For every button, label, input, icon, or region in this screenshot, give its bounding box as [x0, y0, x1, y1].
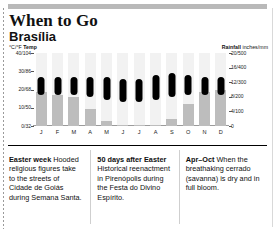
month-label: A	[85, 129, 96, 135]
temperature-range-marker	[217, 77, 224, 95]
chart-column: N	[199, 53, 210, 126]
rainfall-bar	[215, 90, 226, 126]
city-subtitle: Brasília	[9, 30, 56, 44]
chart-column: D	[215, 53, 226, 126]
chart-column: A	[85, 53, 96, 126]
rainfall-bar	[150, 125, 161, 126]
month-label: D	[215, 129, 226, 135]
chart-column: M	[101, 53, 112, 126]
right-axis-tick-label: 20/500	[231, 51, 246, 56]
left-axis-tick-label: 40/104	[16, 51, 31, 56]
caption-block: Easter week Hooded religious figures tak…	[8, 150, 90, 224]
month-label: A	[150, 129, 161, 135]
left-axis-tick-label: 30/86	[18, 69, 31, 74]
chart-column: J	[36, 53, 47, 126]
rainfall-bar	[166, 119, 177, 126]
temperature-range-marker	[152, 75, 159, 101]
caption-block: Apr–Oct When the breathaking cerrado (sa…	[179, 150, 267, 224]
rainfall-bar	[134, 125, 145, 126]
right-axis-tick-mark	[229, 111, 232, 112]
month-label: J	[117, 129, 128, 135]
temperature-range-marker	[136, 79, 143, 103]
climate-chart: °C/°F Temp Rainfall inches/mm 0/3210/502…	[0, 44, 275, 142]
month-label: M	[101, 129, 112, 135]
left-axis-tick-mark	[31, 126, 34, 127]
month-label: J	[36, 129, 47, 135]
left-axis-tick-label: 10/50	[18, 105, 31, 110]
temperature-range-marker	[103, 77, 110, 101]
temperature-range-marker	[70, 77, 77, 95]
temperature-range-marker	[87, 77, 94, 97]
caption-block: 50 days after Easter Historical reenactm…	[90, 150, 178, 224]
rainfall-bar	[85, 109, 96, 126]
top-divider-bar	[8, 4, 267, 9]
rainfall-bar	[101, 121, 112, 126]
left-axis-tick-mark	[31, 71, 34, 72]
month-label: S	[166, 129, 177, 135]
rainfall-bar	[199, 92, 210, 126]
right-axis-tick-label: 12/300	[231, 80, 246, 85]
rainfall-bar	[52, 95, 63, 126]
captions-top-rule	[8, 145, 267, 146]
temperature-range-marker	[119, 79, 126, 103]
right-axis-units: inches/mm	[242, 44, 268, 50]
month-label: J	[134, 129, 145, 135]
temperature-range-marker	[185, 75, 192, 95]
captions-row: Easter week Hooded religious figures tak…	[8, 150, 267, 224]
right-axis-tick-label: 8/200	[231, 94, 244, 99]
caption-heading: Easter week	[9, 155, 51, 164]
right-axis-tick-mark	[229, 68, 232, 69]
month-label: O	[183, 129, 194, 135]
chart-column: M	[68, 53, 79, 126]
right-axis-tick-label: 16/400	[231, 65, 246, 70]
chart-column: F	[52, 53, 63, 126]
chart-column: O	[183, 53, 194, 126]
plot-area: 0/3210/5020/6830/8640/10404/1008/20012/3…	[33, 53, 229, 126]
caption-text: Historical reenactment in Pirenópolis du…	[97, 164, 170, 201]
rainfall-bar	[36, 92, 47, 126]
left-axis-tick-mark	[31, 108, 34, 109]
temperature-range-marker	[54, 77, 61, 95]
caption-heading: Apr–Oct	[186, 155, 215, 164]
chart-column: J	[117, 53, 128, 126]
page-title: When to Go	[9, 11, 98, 30]
temperature-range-marker	[201, 77, 208, 95]
temperature-range-marker	[38, 77, 45, 95]
left-axis-tick-mark	[31, 53, 34, 54]
right-axis-tick-mark	[229, 53, 232, 54]
right-axis-tick-mark	[229, 97, 232, 98]
month-label: M	[68, 129, 79, 135]
chart-column: S	[166, 53, 177, 126]
right-axis-tick-mark	[229, 126, 232, 127]
temperature-range-marker	[168, 73, 175, 97]
rainfall-bar	[68, 97, 79, 126]
left-axis-tick-label: 20/68	[18, 87, 31, 92]
chart-column: J	[134, 53, 145, 126]
caption-heading: 50 days after Easter	[97, 155, 166, 164]
rainfall-bar	[117, 125, 128, 126]
left-axis-tick-mark	[31, 90, 34, 91]
month-label: N	[199, 129, 210, 135]
right-axis-tick-label: 4/100	[231, 109, 244, 114]
right-axis-tick-mark	[229, 82, 232, 83]
rainfall-bar	[183, 104, 194, 126]
month-label: F	[52, 129, 63, 135]
chart-column: A	[150, 53, 161, 126]
